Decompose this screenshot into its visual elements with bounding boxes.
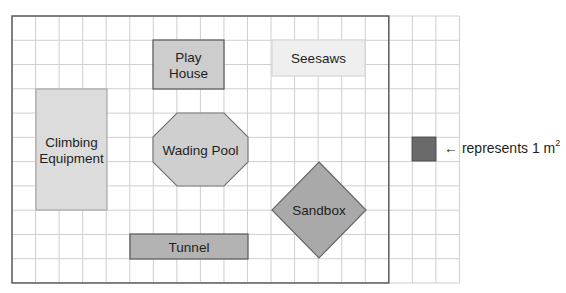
play-house-area: PlayHouse [153,40,224,89]
playground-areas: PlayHouseSeesawsClimbingEquipmentWading … [36,40,366,259]
play-house-label: House [169,66,208,81]
play-house-label: Play [175,50,202,65]
tunnel-area: Tunnel [130,234,248,259]
tunnel-label: Tunnel [169,240,210,255]
legend-text: represents 1 m [462,140,555,156]
unit-square-legend [412,137,436,161]
sandbox-label: Sandbox [292,203,346,218]
play-house-shape [153,40,224,89]
seesaws-area: Seesaws [272,40,365,76]
legend-label: ← represents 1 m2 [444,139,560,156]
legend-superscript: 2 [555,138,560,148]
wading-pool-label: Wading Pool [162,143,238,158]
sandbox-area: Sandbox [272,162,366,258]
wading-pool-area: Wading Pool [153,113,248,186]
playground-diagram: PlayHouseSeesawsClimbingEquipmentWading … [0,0,566,293]
arrow-left-icon: ← [444,140,458,156]
climbing-equipment-area: ClimbingEquipment [36,89,107,210]
seesaws-label: Seesaws [291,51,346,66]
climbing-equipment-label: Climbing [45,135,98,150]
climbing-equipment-label: Equipment [39,151,104,166]
climbing-equipment-shape [36,89,107,210]
